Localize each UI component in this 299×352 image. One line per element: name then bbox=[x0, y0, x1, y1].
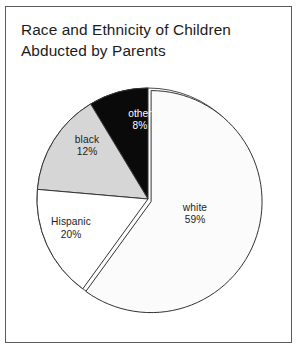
slice-label-other-name: other bbox=[128, 108, 152, 119]
slice-label-hispanic-value: 20% bbox=[61, 229, 82, 240]
pie-chart-figure: Race and Ethnicity of Children Abducted … bbox=[0, 0, 299, 352]
pie-chart: other 8% black 12% Hispanic 20% white 59… bbox=[0, 0, 299, 352]
slice-label-other-value: 8% bbox=[133, 120, 148, 131]
slice-label-white-value: 59% bbox=[185, 214, 206, 225]
slice-label-white-name: white bbox=[182, 202, 208, 213]
slice-label-black-value: 12% bbox=[77, 146, 98, 157]
slice-label-black-name: black bbox=[75, 134, 100, 145]
slice-label-hispanic-name: Hispanic bbox=[51, 216, 91, 227]
